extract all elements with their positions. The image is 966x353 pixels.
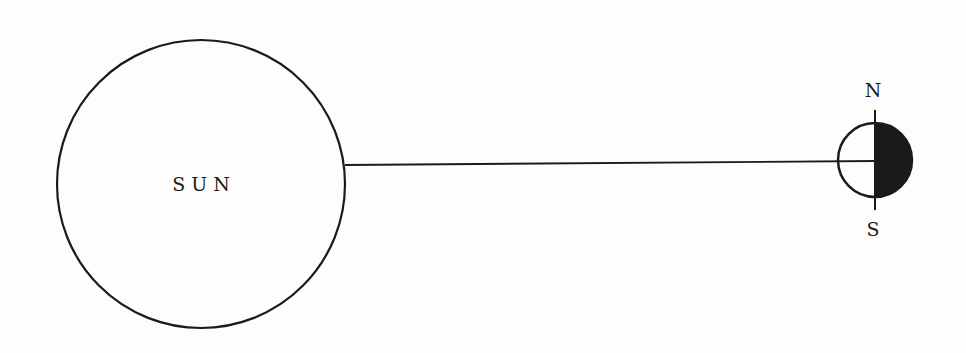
diagram-canvas: S U N N S bbox=[0, 0, 966, 353]
diagram-svg: S U N N S bbox=[0, 0, 966, 353]
south-label: S bbox=[866, 218, 879, 240]
dark-hemisphere bbox=[875, 123, 912, 197]
north-label: N bbox=[865, 79, 882, 101]
sun-label: S U N bbox=[172, 173, 230, 195]
sun-body-connector-line bbox=[345, 161, 875, 165]
planet-body bbox=[838, 110, 912, 210]
